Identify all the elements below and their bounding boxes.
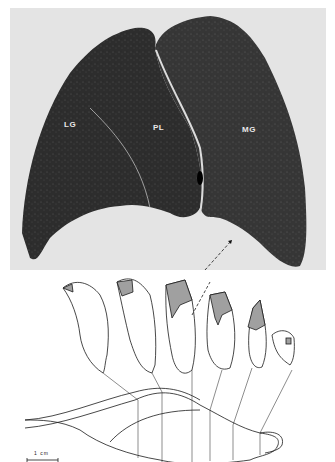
line-drawing: 1 cm — [0, 270, 335, 462]
micrograph-photo: LG PL MG — [10, 8, 326, 270]
scale-bar-label: 1 cm — [34, 450, 49, 456]
label-lg: LG — [64, 120, 76, 129]
section-outlines — [0, 270, 335, 462]
tissue-section — [10, 8, 326, 270]
label-mg: MG — [242, 125, 256, 134]
label-pl: PL — [153, 123, 164, 132]
